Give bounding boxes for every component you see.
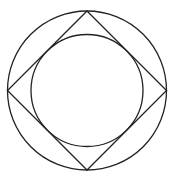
inner-circle [31,35,143,147]
geometry-diagram [0,0,174,179]
diagram-svg [0,0,174,179]
